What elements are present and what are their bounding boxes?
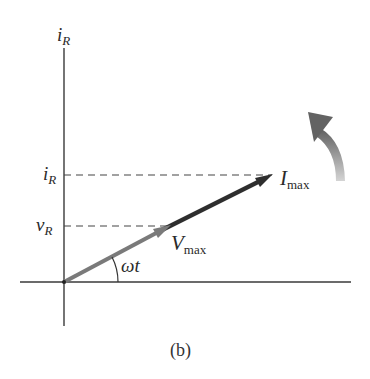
voltage-tick-label: vR	[36, 215, 52, 237]
voltage-tick-label-sub: R	[44, 223, 52, 238]
phasor-diagram	[0, 0, 370, 379]
current-phasor-label: Imax	[280, 168, 309, 191]
current-tick-label: iR	[43, 164, 56, 186]
current-phasor-arrow	[160, 174, 273, 231]
rotation-arrow-icon	[308, 112, 345, 181]
voltage-phasor-label: Vmax	[171, 233, 206, 256]
voltage-phasor-label-main: V	[171, 231, 184, 255]
current-phasor-label-main: I	[280, 166, 287, 190]
angle-label: ωt	[121, 256, 140, 275]
angle-arc	[112, 257, 118, 282]
figure-caption: (b)	[170, 340, 191, 361]
current-phasor-label-sub: max	[287, 177, 309, 192]
vertical-axis-label: iR	[57, 25, 70, 47]
current-tick-label-sub: R	[48, 172, 56, 187]
angle-label-text: ωt	[121, 255, 140, 276]
voltage-phasor-label-sub: max	[184, 242, 206, 257]
origin-point	[62, 280, 66, 284]
vertical-axis-label-sub: R	[62, 33, 70, 48]
